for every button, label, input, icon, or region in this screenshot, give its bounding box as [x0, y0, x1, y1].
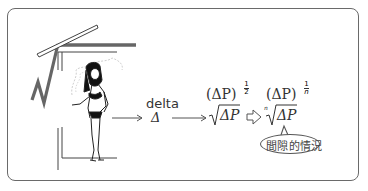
exponent-numerator: 1: [244, 81, 249, 88]
exponent-denominator: n: [304, 89, 309, 96]
delta-symbol: Δ: [151, 110, 160, 125]
power-form-text: (ΔP): [266, 86, 296, 102]
square-root-illustration: [0, 0, 368, 191]
arrow-right-icon: [112, 115, 142, 121]
arrow-right-icon: [172, 115, 206, 121]
exponent-half: 1 2: [244, 81, 249, 96]
root-index: n: [264, 104, 268, 111]
hollow-arrow-icon: [247, 110, 261, 124]
exponent-nth: 1 n: [304, 81, 309, 96]
power-form-nth: (ΔP): [266, 86, 296, 102]
girl-figure-icon: [72, 62, 108, 161]
delta-word: delta: [146, 96, 179, 111]
power-form-half: (ΔP): [206, 86, 236, 102]
callout-text: 間隙的情況: [266, 137, 323, 153]
exponent-denominator: 2: [244, 89, 249, 96]
power-form-text: (ΔP): [206, 86, 236, 102]
sqrt-radicand: ΔP: [220, 107, 240, 123]
nth-root-radicand: ΔP: [277, 107, 297, 123]
exponent-numerator: 1: [304, 81, 309, 88]
